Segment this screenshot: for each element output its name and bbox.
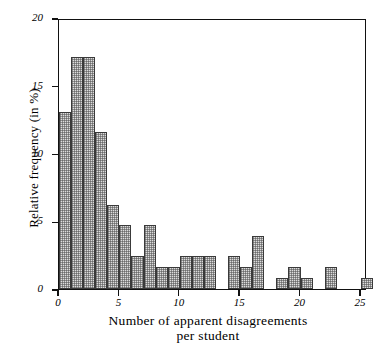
histogram-figure: Relative frequency (in %) 05101520 05101…	[0, 0, 380, 360]
x-tick-label: 5	[103, 296, 133, 308]
y-tick-label: 20	[0, 11, 52, 23]
x-tick-label: 20	[285, 296, 315, 308]
histogram-bar	[107, 205, 119, 289]
plot-area	[58, 19, 366, 290]
x-axis-title-line2: per student	[38, 328, 378, 343]
histogram-bar	[361, 278, 373, 289]
x-axis-title: Number of apparent disagreements per stu…	[38, 313, 378, 343]
histogram-bar	[59, 112, 71, 290]
histogram-bar	[325, 267, 337, 289]
histogram-bar	[119, 225, 131, 289]
y-tick-label: 0	[0, 282, 52, 294]
histogram-bar	[301, 278, 313, 289]
x-tick-label: 25	[345, 296, 375, 308]
x-tick-label: 0	[43, 296, 73, 308]
bar-series	[59, 20, 365, 289]
histogram-bar	[131, 256, 143, 289]
histogram-bar	[144, 225, 156, 289]
x-tick-label: 10	[164, 296, 194, 308]
histogram-bar	[276, 278, 288, 289]
x-axis-title-line1: Number of apparent disagreements	[38, 313, 378, 328]
histogram-bar	[95, 132, 107, 289]
y-tick-label: 10	[0, 147, 52, 159]
histogram-bar	[156, 267, 168, 289]
histogram-bar	[168, 267, 180, 289]
histogram-bar	[240, 267, 252, 289]
histogram-bar	[204, 256, 216, 289]
histogram-bar	[288, 267, 300, 289]
histogram-bar	[192, 256, 204, 289]
histogram-bar	[83, 57, 95, 289]
x-tick-label: 15	[224, 296, 254, 308]
histogram-bar	[180, 256, 192, 289]
histogram-bar	[228, 256, 240, 289]
y-tick-label: 15	[0, 79, 52, 91]
histogram-bar	[252, 236, 264, 289]
histogram-bar	[71, 57, 83, 289]
y-tick-label: 5	[0, 214, 52, 226]
